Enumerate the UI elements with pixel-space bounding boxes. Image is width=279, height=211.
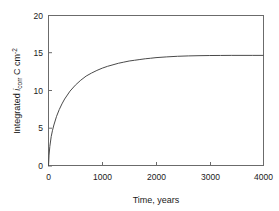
x-tick-label-1: 1000 xyxy=(93,172,112,182)
x-tick-label-4: 4000 xyxy=(254,172,273,182)
x-tick-label-0: 0 xyxy=(46,172,51,182)
chart-svg: 0 1000 2000 3000 4000 0 5 10 15 20 Time,… xyxy=(0,0,279,211)
y-axis-label-lead: Integrated xyxy=(12,91,22,134)
x-tick-label-3: 3000 xyxy=(201,172,220,182)
x-tick-label-2: 2000 xyxy=(147,172,166,182)
y-axis-label: Integrated icorr C cm-2 xyxy=(11,48,23,134)
x-axis-label: Time, years xyxy=(133,195,180,205)
chart-figure: 0 1000 2000 3000 4000 0 5 10 15 20 Time,… xyxy=(0,0,279,211)
y-axis-label-superscript: -2 xyxy=(11,48,18,54)
plot-area-background xyxy=(48,15,264,166)
y-tick-label-1: 5 xyxy=(38,123,43,133)
y-tick-label-3: 15 xyxy=(34,48,44,58)
y-axis-label-units: C cm xyxy=(12,54,22,78)
y-tick-label-0: 0 xyxy=(38,161,43,171)
y-tick-label-4: 20 xyxy=(34,11,44,21)
y-tick-label-2: 10 xyxy=(34,86,44,96)
